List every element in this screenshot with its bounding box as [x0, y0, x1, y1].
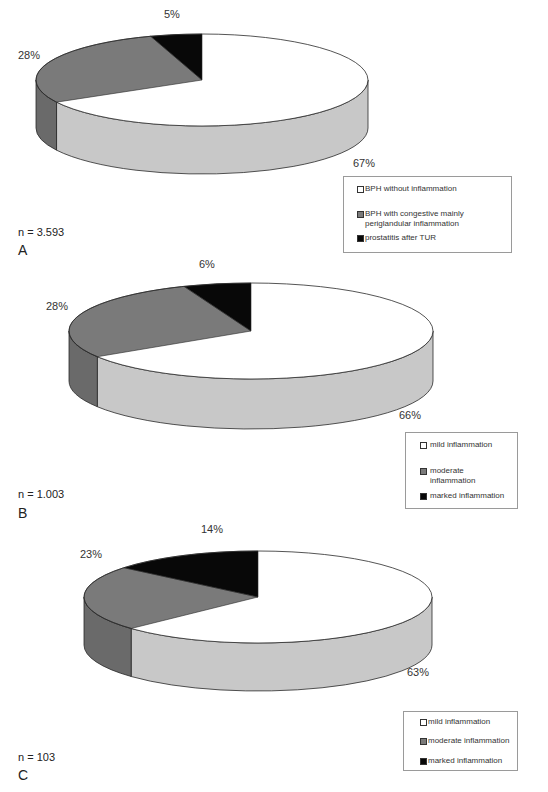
legend-item-black: marked inflammation — [420, 756, 511, 766]
legend-item-white: mild inflammation — [420, 717, 511, 727]
legend-item-gray: moderate inflammation — [420, 736, 511, 746]
pct-label-gray: 23% — [80, 548, 102, 560]
pct-label-white: 63% — [407, 666, 429, 678]
swatch-gray-icon — [420, 738, 427, 745]
swatch-white-icon — [420, 719, 427, 726]
panel-letter-c: C — [18, 767, 28, 783]
swatch-black-icon — [420, 758, 427, 765]
sample-size-c: n = 103 — [18, 751, 55, 763]
panel-c: 14% 23% 63% mild inflammation moderate i… — [0, 0, 548, 792]
legend-c: mild inflammation moderate inflammation … — [403, 711, 518, 771]
pie-chart-c — [0, 0, 548, 792]
pct-label-black: 14% — [201, 523, 223, 535]
